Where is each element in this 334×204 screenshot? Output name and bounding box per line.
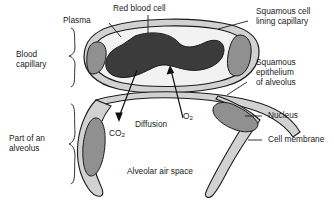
label-squamous-epithelium-line3: of alveolus: [256, 78, 296, 87]
carbon-dioxide-arrowhead: [115, 113, 123, 122]
label-squamous-cell-lining-capillary-line1: Squamous cell: [256, 7, 310, 16]
label-squamous-epithelium-line1: Squamous: [256, 58, 296, 67]
brace-blood-capillary: [69, 28, 75, 87]
label-squamous-cell-lining-capillary-line2: lining capillary: [256, 17, 308, 26]
label-blood-capillary-line1: Blood: [16, 50, 37, 59]
label-carbon-dioxide: CO2: [109, 129, 125, 140]
label-plasma: Plasma: [63, 16, 91, 25]
label-red-blood-cell: Red blood cell: [113, 4, 166, 13]
alveolus-group: [77, 92, 300, 198]
blood-capillary-group: [84, 19, 259, 93]
label-squamous-epithelium-line2: epithelium: [256, 68, 294, 77]
brace-group: [69, 28, 75, 184]
label-blood-capillary-line2: capillary: [16, 60, 46, 69]
diagram-figure: Plasma Red blood cell Squamous cell lini…: [0, 0, 334, 204]
label-part-of-an-alveolus-line2: alveolus: [9, 144, 39, 153]
label-carbon-dioxide-subscript: 2: [121, 131, 124, 138]
label-carbon-dioxide-main: CO: [109, 128, 121, 138]
label-part-of-an-alveolus-line1: Part of an: [9, 134, 45, 143]
label-oxygen-subscript: 2: [189, 114, 192, 121]
label-nucleus: Nucleus: [268, 111, 298, 120]
label-alveolar-air-space: Alveolar air space: [127, 167, 193, 176]
label-cell-membrane: Cell membrane: [268, 135, 324, 144]
brace-part-of-an-alveolus: [69, 104, 75, 184]
label-oxygen: O2: [183, 112, 193, 123]
label-diffusion: Diffusion: [135, 120, 167, 129]
